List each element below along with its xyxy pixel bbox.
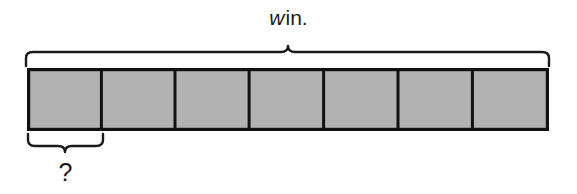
figure-container: win. ? (0, 0, 577, 194)
width-unit-text: in. (285, 6, 307, 29)
width-variable-text: w (269, 6, 285, 29)
top-width-brace (26, 46, 549, 66)
unknown-length-label: ? (28, 160, 103, 185)
bottom-segment-brace (28, 134, 103, 152)
rectangle-bar (29, 70, 548, 130)
total-width-label: win. (0, 7, 577, 28)
